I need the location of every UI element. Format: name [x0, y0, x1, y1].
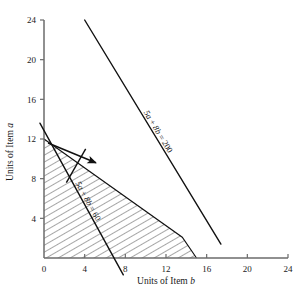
y-tick-label-20: 20 [27, 55, 37, 65]
x-tick-label-8: 8 [123, 264, 128, 274]
x-tick-label-0: 0 [42, 264, 47, 274]
x-tick-label-12: 12 [162, 264, 171, 274]
x-tick-label-4: 4 [82, 264, 87, 274]
page-footer-fragment [0, 292, 303, 301]
x-tick-label-24: 24 [284, 264, 294, 274]
y-tick-label-12: 12 [27, 134, 36, 144]
y-tick-label-4: 4 [32, 214, 37, 224]
y-tick-label-8: 8 [32, 174, 37, 184]
x-tick-label-16: 16 [202, 264, 212, 274]
y-tick-label-16: 16 [27, 95, 37, 105]
y-tick-label-24: 24 [27, 15, 37, 25]
y-axis-title: Units of Item a [5, 123, 15, 181]
linear-programming-plot: 4812162024 04812162024 5a + 8b = 200 5a … [0, 0, 303, 301]
x-tick-label-20: 20 [243, 264, 253, 274]
x-axis-title: Units of Item b [137, 276, 195, 286]
chart-figure: 4812162024 04812162024 5a + 8b = 200 5a … [0, 0, 303, 301]
